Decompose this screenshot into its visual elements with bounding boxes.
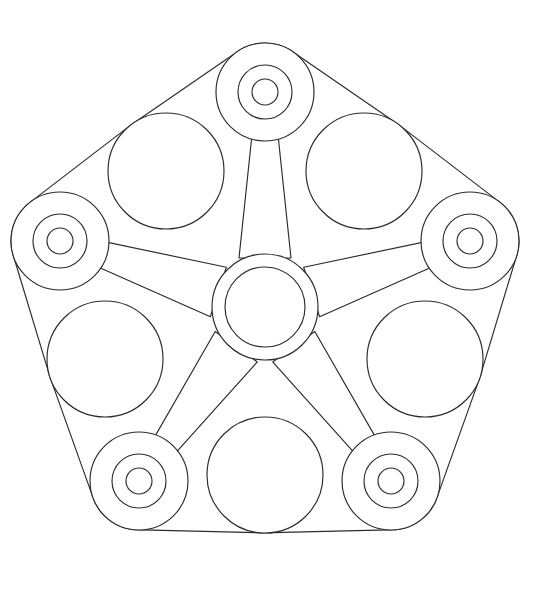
- planet-circle: [47, 301, 163, 417]
- hub-inner-circle: [225, 267, 305, 347]
- satellite-boss: [90, 432, 188, 530]
- boss-inner-circle: [126, 468, 152, 494]
- planet-circle: [306, 113, 422, 229]
- boss-inner-circle: [378, 468, 404, 494]
- satellite-boss: [11, 192, 109, 290]
- planet-circle: [207, 417, 323, 533]
- drawing-canvas: Planetary Gear Carrier — Orthographic Li…: [0, 0, 533, 615]
- planet-circle: [367, 301, 483, 417]
- satellite-boss: [216, 43, 314, 141]
- satellite-boss: [421, 192, 519, 290]
- planet-circle: [108, 113, 224, 229]
- planetary-carrier-figure: [0, 0, 533, 615]
- boss-inner-circle: [457, 228, 483, 254]
- boss-inner-circle: [47, 228, 73, 254]
- satellite-boss: [342, 432, 440, 530]
- central-hub-group: [212, 254, 318, 360]
- boss-inner-circle: [252, 79, 278, 105]
